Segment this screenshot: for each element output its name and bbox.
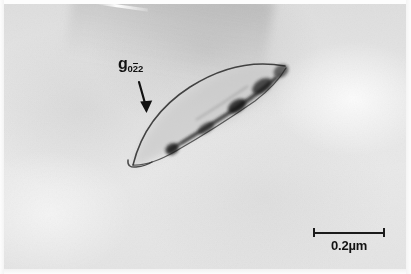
g-subscript-suffix: 2 — [138, 63, 143, 74]
print-margin-right — [406, 0, 411, 274]
scale-bar: 0.2µm — [312, 228, 386, 253]
g-symbol: g — [118, 55, 128, 72]
scale-bar-cap-right — [383, 228, 385, 237]
print-margin-bottom — [0, 269, 411, 274]
scale-bar-label: 0.2µm — [312, 239, 386, 253]
tem-micrograph-figure: g022 0.2µm — [0, 0, 411, 274]
g-vector-arrow — [139, 82, 152, 113]
g-vector-label: g022 — [118, 56, 143, 72]
print-margin-left — [0, 0, 4, 274]
print-margin-top — [0, 0, 411, 4]
scale-bar-line — [314, 232, 384, 234]
g-subscript: 022 — [128, 63, 144, 74]
scale-bar-rule — [312, 228, 386, 237]
g-subscript-barred: 2 — [133, 64, 138, 74]
